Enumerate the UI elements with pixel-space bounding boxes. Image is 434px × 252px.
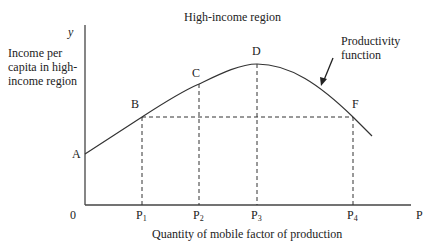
tick-p3: P3	[251, 208, 262, 226]
origin-label: 0	[70, 208, 76, 222]
tick-p2: P2	[193, 208, 204, 226]
arrowhead-icon	[320, 77, 327, 86]
x-axis-variable: P	[416, 208, 423, 222]
productivity-curve	[85, 64, 372, 154]
y-axis-label: Income per capita in high-income region	[8, 46, 78, 88]
y-axis-variable: y	[68, 25, 73, 39]
point-label-d: D	[252, 44, 261, 58]
tick-p4: P4	[347, 208, 358, 226]
point-label-a: A	[72, 147, 81, 161]
arrow-icon	[324, 58, 333, 80]
tick-p1: P1	[136, 208, 147, 226]
point-label-b: B	[131, 97, 139, 111]
diagram-title: High-income region	[184, 10, 281, 24]
x-axis-label: Quantity of mobile factor of production	[152, 227, 342, 241]
curve-label: Productivity function	[341, 34, 421, 62]
point-label-f: F	[352, 97, 359, 111]
point-label-c: C	[192, 66, 200, 80]
